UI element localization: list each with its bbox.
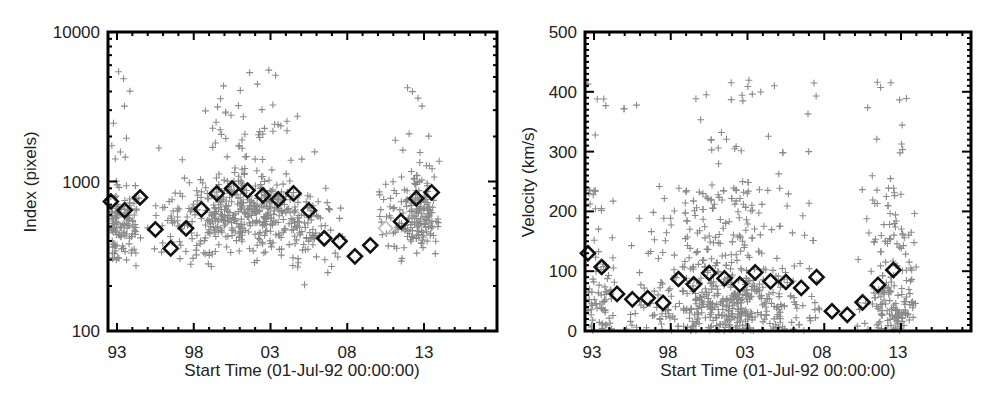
- event-point: [676, 185, 683, 192]
- event-point: [392, 137, 399, 144]
- event-point: [799, 302, 806, 309]
- x-tick-label-08: 08: [813, 343, 832, 362]
- event-point: [214, 104, 221, 111]
- event-point: [796, 321, 803, 328]
- event-point: [788, 319, 795, 326]
- event-point: [886, 297, 893, 304]
- mean-diamond-marker: [825, 304, 839, 318]
- event-point: [122, 154, 129, 161]
- event-point: [242, 153, 249, 160]
- event-point: [661, 195, 668, 202]
- event-point: [671, 208, 678, 215]
- event-point: [902, 251, 909, 258]
- event-point: [718, 129, 725, 136]
- event-point: [686, 315, 693, 322]
- event-point: [235, 102, 242, 109]
- event-point: [181, 175, 188, 182]
- event-point: [879, 312, 886, 319]
- event-point: [376, 189, 383, 196]
- event-point: [280, 216, 287, 223]
- event-point: [651, 236, 658, 243]
- event-point: [110, 120, 117, 127]
- event-point: [693, 249, 700, 256]
- event-point: [380, 196, 387, 203]
- x-tick-label-13: 13: [889, 343, 908, 362]
- event-point: [799, 212, 806, 219]
- event-point: [736, 214, 743, 221]
- event-point: [610, 254, 617, 261]
- event-point: [267, 228, 274, 235]
- event-point: [431, 174, 438, 181]
- event-point: [611, 279, 618, 286]
- event-point: [595, 248, 602, 255]
- event-point: [739, 178, 746, 185]
- event-point: [735, 208, 742, 215]
- event-point: [378, 219, 385, 226]
- event-point: [668, 222, 675, 229]
- event-point: [740, 189, 747, 196]
- event-point: [610, 265, 617, 272]
- event-point: [890, 185, 897, 192]
- event-point: [252, 231, 259, 238]
- event-point: [694, 248, 701, 255]
- event-point: [190, 255, 197, 262]
- event-point: [286, 241, 293, 248]
- event-point: [187, 261, 194, 268]
- event-point: [707, 239, 714, 246]
- event-point: [740, 98, 747, 105]
- event-point: [182, 248, 189, 255]
- event-point: [217, 126, 224, 133]
- event-point: [301, 281, 308, 288]
- event-point: [717, 216, 724, 223]
- event-point: [322, 185, 329, 192]
- event-point: [811, 80, 818, 87]
- event-point: [779, 149, 786, 156]
- event-point: [776, 223, 783, 230]
- event-point: [702, 285, 709, 292]
- event-point: [240, 113, 247, 120]
- event-point: [202, 250, 209, 257]
- event-point: [259, 106, 266, 113]
- index-plot-frame: [108, 32, 497, 331]
- event-point: [815, 305, 822, 312]
- event-point: [231, 169, 238, 176]
- event-point: [224, 154, 231, 161]
- event-point: [326, 206, 333, 213]
- event-point: [874, 79, 881, 86]
- event-point: [284, 127, 291, 134]
- event-point: [227, 249, 234, 256]
- y-tick-label-1000: 1000: [62, 173, 100, 192]
- event-point: [742, 227, 749, 234]
- event-point: [749, 91, 756, 98]
- event-point: [223, 244, 230, 251]
- index-plot: 10000 1000 100 93 98 03 08 13 Start Time…: [21, 23, 497, 380]
- event-point: [595, 226, 602, 233]
- event-point: [756, 186, 763, 193]
- mean-diamond-marker: [840, 308, 854, 322]
- index-plot-ticks: [108, 32, 497, 331]
- event-point: [419, 103, 426, 110]
- event-point: [874, 187, 881, 194]
- event-point: [318, 223, 325, 230]
- event-point: [425, 133, 432, 140]
- event-point: [382, 181, 389, 188]
- event-point: [908, 276, 915, 283]
- event-point: [637, 281, 644, 288]
- event-point: [415, 95, 422, 102]
- event-point: [328, 263, 335, 270]
- event-point: [399, 147, 406, 154]
- event-point: [268, 166, 275, 173]
- event-point: [398, 174, 405, 181]
- x-tick-label-03: 03: [261, 343, 280, 362]
- event-point: [896, 96, 903, 103]
- event-point: [268, 244, 275, 251]
- event-point: [878, 232, 885, 239]
- event-point: [265, 67, 272, 74]
- event-point: [700, 216, 707, 223]
- event-point: [727, 265, 734, 272]
- mean-diamond-marker: [794, 281, 808, 295]
- event-point: [184, 214, 191, 221]
- event-point: [337, 205, 344, 212]
- event-point: [123, 256, 130, 263]
- event-point: [261, 178, 268, 185]
